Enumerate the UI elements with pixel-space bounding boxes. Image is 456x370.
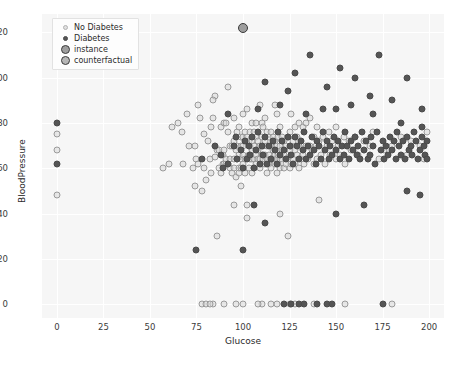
data-point: [53, 192, 60, 199]
data-point: [217, 151, 224, 158]
data-point: [320, 106, 327, 113]
gridline-vertical: [336, 14, 337, 318]
data-point: [292, 69, 299, 76]
data-point: [213, 233, 220, 240]
data-point: [288, 151, 295, 158]
data-point: [307, 51, 314, 58]
data-point: [333, 124, 340, 131]
data-point: [398, 119, 405, 126]
data-point: [360, 201, 367, 208]
data-point: [208, 124, 215, 131]
chart-legend: No DiabetesDiabetesinstancecounterfactua…: [52, 18, 139, 70]
x-axis-tick-label: 0: [37, 322, 77, 332]
data-point: [165, 160, 172, 167]
data-point: [372, 160, 379, 167]
y-axis-label: BloodPressure: [17, 111, 27, 231]
data-point: [273, 110, 280, 117]
data-point: [210, 97, 217, 104]
data-point: [262, 219, 269, 226]
data-point: [206, 301, 213, 308]
gridline-horizontal: [42, 214, 444, 215]
data-point: [254, 128, 261, 135]
legend-item: instance: [56, 44, 132, 55]
y-axis-tick-label: 80: [0, 118, 8, 128]
data-point: [191, 142, 198, 149]
legend-swatch: [61, 45, 70, 54]
y-axis-tick-label: 60: [0, 163, 8, 173]
data-point: [418, 106, 425, 113]
x-axis-tick-label: 25: [83, 322, 123, 332]
data-point: [411, 128, 418, 135]
legend-item: No Diabetes: [56, 22, 132, 33]
data-point: [273, 160, 280, 167]
data-point: [210, 115, 217, 122]
data-point: [286, 142, 293, 149]
data-point: [277, 101, 284, 108]
data-point: [388, 147, 395, 154]
data-point: [202, 176, 209, 183]
data-point: [379, 301, 386, 308]
data-point: [262, 79, 269, 86]
data-point: [240, 301, 247, 308]
data-point: [245, 142, 252, 149]
data-point: [320, 128, 327, 135]
data-point: [303, 110, 310, 117]
data-point: [323, 83, 330, 90]
gridline-horizontal: [42, 123, 444, 124]
scatter-chart-figure: BloodPressure Glucose No DiabetesDiabete…: [0, 0, 456, 370]
legend-item: counterfactual: [56, 55, 132, 66]
data-point: [225, 83, 232, 90]
data-point: [254, 301, 261, 308]
data-point: [53, 147, 60, 154]
data-point: [238, 147, 245, 154]
data-point: [342, 301, 349, 308]
data-point: [254, 106, 261, 113]
legend-item-label: No Diabetes: [74, 23, 123, 32]
data-point: [403, 187, 410, 194]
data-point: [414, 156, 421, 163]
data-point: [234, 156, 241, 163]
data-point: [280, 301, 287, 308]
data-point: [230, 142, 237, 149]
gridline-horizontal: [42, 78, 444, 79]
data-point: [333, 210, 340, 217]
data-point: [401, 156, 408, 163]
data-point: [243, 106, 250, 113]
data-point: [357, 156, 364, 163]
data-point: [336, 65, 343, 72]
data-point: [370, 142, 377, 149]
data-point: [199, 187, 206, 194]
data-point: [230, 115, 237, 122]
data-point: [200, 165, 207, 172]
legend-swatch: [63, 36, 68, 41]
data-point: [243, 215, 250, 222]
data-point: [284, 133, 291, 140]
data-point: [329, 301, 336, 308]
data-point: [418, 124, 425, 131]
data-point: [366, 92, 373, 99]
data-point: [223, 119, 230, 126]
data-point: [230, 201, 237, 208]
y-axis-tick-label: 100: [0, 73, 8, 83]
x-axis-label: Glucose: [42, 336, 444, 346]
data-point: [288, 110, 295, 117]
data-point: [191, 183, 198, 190]
data-point: [197, 115, 204, 122]
data-point: [240, 165, 247, 172]
data-point: [204, 138, 211, 145]
legend-item-label: instance: [74, 45, 108, 54]
legend-item: Diabetes: [56, 33, 132, 44]
data-point: [221, 301, 228, 308]
data-point: [269, 138, 276, 145]
x-axis-tick-label: 200: [409, 322, 449, 332]
data-point: [403, 74, 410, 81]
data-point: [288, 301, 295, 308]
x-axis-tick-label: 125: [270, 322, 310, 332]
data-point: [316, 197, 323, 204]
data-point: [301, 128, 308, 135]
data-point: [347, 101, 354, 108]
legend-item-label: counterfactual: [74, 56, 132, 65]
data-point: [260, 151, 267, 158]
gridline-vertical: [383, 14, 384, 318]
data-point: [403, 133, 410, 140]
